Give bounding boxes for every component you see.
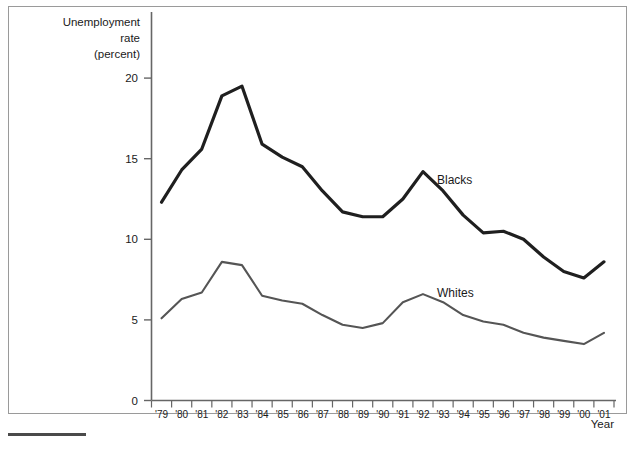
x-tick-label: '87 xyxy=(316,409,329,420)
x-axis-tick-labels: '79'80'81'82'83'84'85'86'87'88'89'90'91'… xyxy=(155,409,611,420)
x-tick-label: '97 xyxy=(517,409,530,420)
x-axis-title: Year xyxy=(591,418,614,430)
x-tick-label: '82 xyxy=(215,409,228,420)
x-tick-label: '86 xyxy=(296,409,309,420)
y-tick-label-20: 20 xyxy=(125,72,138,84)
x-tick-label: '95 xyxy=(477,409,490,420)
series-label-whites: Whites xyxy=(437,286,474,300)
x-tick-label: '92 xyxy=(416,409,429,420)
x-tick-label: '90 xyxy=(376,409,389,420)
x-tick-label: '89 xyxy=(356,409,369,420)
y-tick-label-5: 5 xyxy=(132,314,138,326)
x-tick-label: '83 xyxy=(235,409,248,420)
series-label-blacks: Blacks xyxy=(437,173,472,187)
y-axis-title-line-3: (percent) xyxy=(94,48,140,60)
x-axis-ticks xyxy=(152,401,615,408)
x-tick-label: '96 xyxy=(497,409,510,420)
x-tick-label: '88 xyxy=(336,409,349,420)
x-tick-label: '91 xyxy=(396,409,409,420)
y-tick-label-0: 0 xyxy=(132,395,138,407)
y-axis-ticks xyxy=(144,78,152,400)
figure-container: Unemployment rate (percent) 0 5 10 15 20… xyxy=(0,0,641,449)
x-tick-label: '80 xyxy=(175,409,188,420)
x-tick-label: '79 xyxy=(155,409,168,420)
x-tick-label: '85 xyxy=(276,409,289,420)
y-tick-label-10: 10 xyxy=(125,233,138,245)
series-line-blacks xyxy=(162,86,604,278)
y-axis-title-line-2: rate xyxy=(120,32,140,44)
y-axis-title-line-1: Unemployment xyxy=(63,16,141,28)
x-tick-label: '00 xyxy=(577,409,590,420)
line-chart: Unemployment rate (percent) 0 5 10 15 20… xyxy=(0,0,641,449)
y-tick-label-15: 15 xyxy=(125,153,138,165)
x-tick-label: '93 xyxy=(437,409,450,420)
x-tick-label: '94 xyxy=(457,409,470,420)
series-line-whites xyxy=(162,262,604,344)
x-tick-label: '81 xyxy=(195,409,208,420)
x-tick-label: '98 xyxy=(537,409,550,420)
x-tick-label: '84 xyxy=(256,409,269,420)
x-tick-label: '99 xyxy=(557,409,570,420)
